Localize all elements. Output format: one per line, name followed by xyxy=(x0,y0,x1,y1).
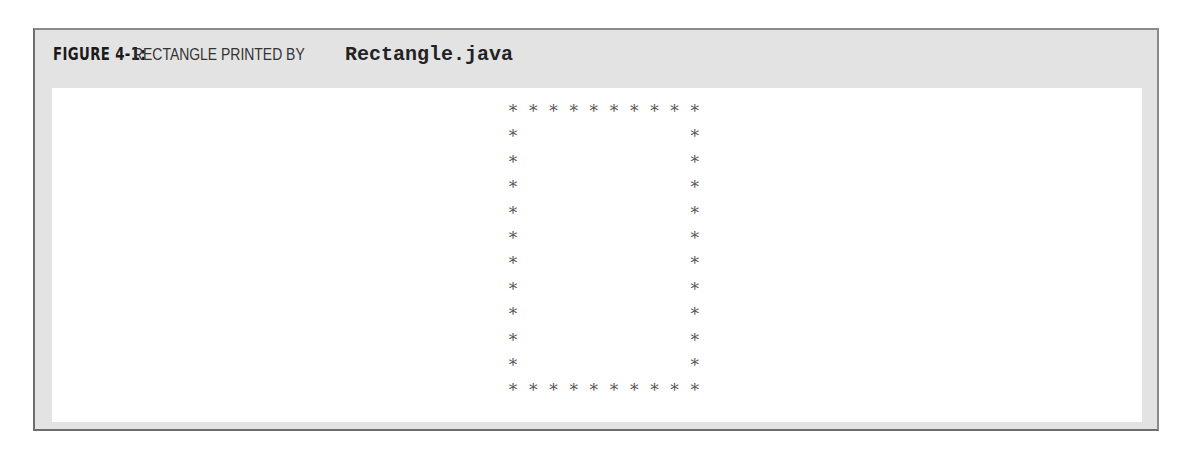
space-char xyxy=(523,175,543,200)
space-char xyxy=(584,328,604,353)
space-char xyxy=(604,175,624,200)
space-char xyxy=(665,226,685,251)
output-line: * * xyxy=(503,175,705,200)
space-char xyxy=(564,124,584,149)
space-char xyxy=(665,353,685,378)
asterisk-char: * xyxy=(685,150,705,175)
space-char xyxy=(584,150,604,175)
space-char xyxy=(564,150,584,175)
space-char xyxy=(604,251,624,276)
space-char xyxy=(543,353,563,378)
space-char xyxy=(644,353,664,378)
output-line: * * xyxy=(503,302,705,327)
asterisk-char: * xyxy=(503,378,523,403)
space-char xyxy=(644,124,664,149)
asterisk-char: * xyxy=(685,175,705,200)
asterisk-char: * xyxy=(503,277,523,302)
output-line: * * xyxy=(503,251,705,276)
space-char xyxy=(564,277,584,302)
asterisk-char: * xyxy=(624,99,644,124)
asterisk-char: * xyxy=(503,99,523,124)
asterisk-char: * xyxy=(604,99,624,124)
space-char xyxy=(665,201,685,226)
output-line: * * xyxy=(503,277,705,302)
space-char xyxy=(564,175,584,200)
space-char xyxy=(624,150,644,175)
asterisk-char: * xyxy=(685,277,705,302)
space-char xyxy=(665,328,685,353)
asterisk-char: * xyxy=(523,378,543,403)
space-char xyxy=(543,302,563,327)
space-char xyxy=(604,328,624,353)
console-output-panel: *********** ** ** ** ** ** ** ** ** ** *… xyxy=(52,88,1142,422)
space-char xyxy=(584,251,604,276)
space-char xyxy=(644,251,664,276)
space-char xyxy=(644,302,664,327)
space-char xyxy=(644,226,664,251)
figure-frame: FIGURE 4-1: RECTANGLE PRINTED BY Rectang… xyxy=(33,28,1159,431)
asterisk-char: * xyxy=(685,328,705,353)
space-char xyxy=(624,353,644,378)
space-char xyxy=(665,175,685,200)
space-char xyxy=(665,150,685,175)
asterisk-char: * xyxy=(665,378,685,403)
space-char xyxy=(523,226,543,251)
asterisk-char: * xyxy=(624,378,644,403)
space-char xyxy=(624,328,644,353)
asterisk-char: * xyxy=(644,99,664,124)
space-char xyxy=(584,353,604,378)
space-char xyxy=(624,201,644,226)
asterisk-char: * xyxy=(685,99,705,124)
space-char xyxy=(564,201,584,226)
space-char xyxy=(584,302,604,327)
space-char xyxy=(543,277,563,302)
asterisk-char: * xyxy=(584,378,604,403)
asterisk-char: * xyxy=(685,378,705,403)
space-char xyxy=(624,124,644,149)
space-char xyxy=(644,201,664,226)
space-char xyxy=(665,302,685,327)
asterisk-char: * xyxy=(503,124,523,149)
space-char xyxy=(523,328,543,353)
figure-caption-text: RECTANGLE PRINTED BY xyxy=(133,45,307,65)
space-char xyxy=(624,175,644,200)
space-char xyxy=(564,302,584,327)
space-char xyxy=(604,302,624,327)
space-char xyxy=(604,353,624,378)
space-char xyxy=(543,201,563,226)
space-char xyxy=(584,175,604,200)
asterisk-char: * xyxy=(584,99,604,124)
asterisk-char: * xyxy=(503,353,523,378)
output-line: * * xyxy=(503,353,705,378)
space-char xyxy=(665,251,685,276)
space-char xyxy=(543,251,563,276)
space-char xyxy=(523,353,543,378)
space-char xyxy=(604,226,624,251)
space-char xyxy=(624,302,644,327)
space-char xyxy=(584,124,604,149)
asterisk-char: * xyxy=(685,124,705,149)
asterisk-char: * xyxy=(503,251,523,276)
asterisk-char: * xyxy=(543,99,563,124)
space-char xyxy=(523,124,543,149)
space-char xyxy=(584,201,604,226)
asterisk-char: * xyxy=(685,353,705,378)
asterisk-char: * xyxy=(503,150,523,175)
space-char xyxy=(644,328,664,353)
output-line: * * xyxy=(503,226,705,251)
space-char xyxy=(665,124,685,149)
asterisk-char: * xyxy=(543,378,563,403)
space-char xyxy=(604,124,624,149)
space-char xyxy=(523,302,543,327)
asterisk-char: * xyxy=(503,201,523,226)
space-char xyxy=(564,251,584,276)
output-line: ********** xyxy=(503,99,705,124)
space-char xyxy=(523,201,543,226)
space-char xyxy=(624,277,644,302)
asterisk-char: * xyxy=(685,226,705,251)
space-char xyxy=(523,277,543,302)
output-line: * * xyxy=(503,328,705,353)
figure-label: FIGURE 4-1: xyxy=(53,44,114,64)
space-char xyxy=(543,175,563,200)
asterisk-char: * xyxy=(503,226,523,251)
